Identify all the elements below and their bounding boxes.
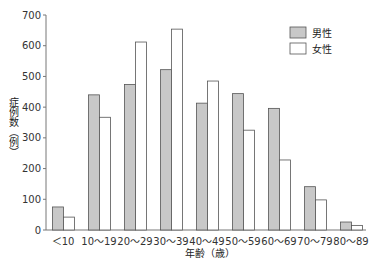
bar-female	[208, 81, 219, 230]
y-tick-label: 400	[22, 102, 41, 113]
bar-male	[161, 70, 172, 230]
bar-female	[64, 217, 75, 230]
bar-male	[341, 222, 352, 230]
x-tick-label: 60～69	[261, 236, 296, 247]
y-tick-label: 700	[22, 10, 41, 21]
y-tick-label: 100	[22, 194, 41, 205]
y-tick-label: 300	[22, 132, 41, 143]
bar-female	[172, 29, 183, 230]
bar-female	[100, 117, 111, 230]
x-tick-label: 70～79	[297, 236, 332, 247]
x-tick-label: 10～19	[81, 236, 116, 247]
bar-female	[244, 130, 255, 230]
bars	[53, 29, 363, 230]
y-tick-label: 600	[22, 40, 41, 51]
y-axis: 0100200300400500600700	[22, 10, 46, 236]
x-tick-label: 80～89	[333, 236, 368, 247]
y-tick-label: 500	[22, 71, 41, 82]
x-axis: ＜1010～1920～2930～3940～4950～5960～6970～7980…	[46, 230, 369, 247]
bar-male	[305, 187, 316, 230]
x-tick-label: 50～59	[225, 236, 260, 247]
y-tick-label: 0	[35, 225, 41, 236]
bar-male	[233, 94, 244, 230]
bar-male	[89, 95, 100, 230]
x-axis-title: 年齢（歳）	[185, 247, 235, 259]
y-tick-label: 200	[22, 163, 41, 174]
legend-swatch-male	[290, 27, 306, 38]
bar-male	[125, 84, 136, 230]
bar-female	[316, 200, 327, 230]
bar-male	[53, 207, 64, 230]
legend-swatch-female	[290, 43, 306, 54]
x-tick-label: 20～29	[117, 236, 152, 247]
legend: 男性女性	[290, 27, 332, 55]
bar-female	[136, 42, 147, 230]
bar-female	[352, 225, 363, 230]
bar-male	[269, 108, 280, 230]
x-tick-label: 30～39	[153, 236, 188, 247]
y-axis-title: 症例数（例）	[6, 97, 18, 157]
legend-label-male: 男性	[312, 27, 332, 39]
legend-label-female: 女性	[312, 43, 332, 55]
bar-male	[197, 103, 208, 230]
x-tick-label: 40～49	[189, 236, 224, 247]
x-tick-label: ＜10	[52, 236, 75, 247]
bar-female	[280, 160, 291, 230]
bar-chart: 0100200300400500600700 ＜1010～1920～2930～3…	[0, 0, 377, 266]
